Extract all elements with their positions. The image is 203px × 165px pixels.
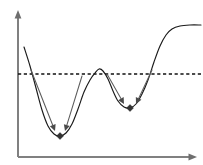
- descent-arrow-shaft: [107, 74, 121, 99]
- y-axis: [15, 10, 22, 157]
- local-minimum-marker-2: [127, 105, 134, 112]
- descent-arrow-right-basin-2: [136, 70, 152, 104]
- local-minimum-marker-1: [57, 133, 64, 140]
- optimization-curve-figure: [0, 0, 203, 165]
- figure-canvas: [0, 0, 203, 165]
- right-arrow-icon: [189, 154, 198, 161]
- descent-arrow-left-basin-2: [107, 74, 124, 104]
- x-axis: [18, 154, 197, 161]
- up-arrow-icon: [15, 10, 22, 19]
- descent-arrow-shaft: [31, 70, 53, 125]
- descent-arrow-left-basin-1: [31, 70, 56, 131]
